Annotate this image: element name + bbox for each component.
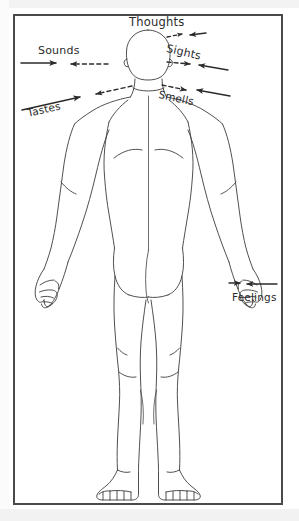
arm-outer-left xyxy=(44,124,75,269)
foot-right xyxy=(159,470,201,500)
glute-left xyxy=(129,295,149,297)
tastes-arrow-dashed xyxy=(96,86,132,94)
head-outline xyxy=(126,30,170,80)
leg-inner-left xyxy=(138,300,146,473)
knee-right xyxy=(161,372,178,377)
thoughts-arrow-solid xyxy=(190,33,206,35)
scapula-right xyxy=(155,149,183,158)
label-sounds: Sounds xyxy=(38,44,80,57)
torso-side-right xyxy=(183,122,193,248)
torso-side-left xyxy=(104,122,114,248)
scapula-left xyxy=(114,149,142,158)
thigh-crease-left xyxy=(118,348,128,355)
human-figure-illustration xyxy=(0,0,299,521)
leg-inner-right xyxy=(151,300,159,473)
arm-outer-right xyxy=(223,124,254,269)
sounds-arrow xyxy=(21,63,108,64)
label-feelings: Feelings xyxy=(232,291,277,303)
thigh-crease-right xyxy=(170,348,180,355)
label-thoughts: Thoughts xyxy=(129,15,184,29)
leg-outer-right xyxy=(177,276,183,470)
ankle-right xyxy=(167,470,180,472)
hand-left xyxy=(35,262,68,308)
thoughts-arrow-dashed xyxy=(167,34,182,37)
arm-inner-left xyxy=(68,130,109,262)
leg-outer-left xyxy=(114,276,120,470)
hip-left xyxy=(113,248,129,295)
hip-right xyxy=(168,248,184,295)
elbow-right xyxy=(221,182,236,194)
knee-left xyxy=(119,372,136,377)
smells-arrow-solid xyxy=(197,90,230,96)
elbow-left xyxy=(61,182,76,194)
glute-right xyxy=(149,295,169,297)
shoulder-left xyxy=(75,97,131,124)
sights-arrow xyxy=(167,62,228,70)
thoughts-arrow xyxy=(167,33,206,37)
diagram-page: Thoughts Sounds Sights Tastes Smells Fee… xyxy=(0,0,299,521)
gluteal-cleft xyxy=(146,250,149,303)
body-outline xyxy=(35,30,262,500)
sights-arrow-solid xyxy=(199,65,228,70)
ankle-left xyxy=(118,470,131,472)
foot-left xyxy=(97,470,139,500)
sights-arrow-dashed xyxy=(167,62,190,64)
arm-inner-right xyxy=(188,130,229,262)
trap-left xyxy=(109,100,128,122)
